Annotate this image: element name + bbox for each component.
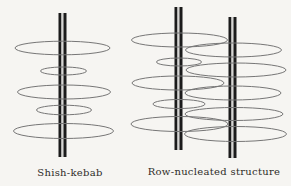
fibril-rod [175, 7, 178, 150]
label-row-nucleated-structure: Row-nucleated structure [148, 166, 281, 178]
morphology-diagram [0, 0, 291, 186]
fibril-rod-core [178, 7, 180, 150]
fibril-rod [180, 7, 183, 150]
fibril-rod-core [232, 17, 234, 158]
label-shish-kebab: Shish-kebab [37, 167, 102, 179]
fibril-rod [229, 17, 232, 158]
fibril-rod [234, 17, 237, 158]
figure-canvas: Shish-kebab Row-nucleated structure [0, 0, 291, 186]
